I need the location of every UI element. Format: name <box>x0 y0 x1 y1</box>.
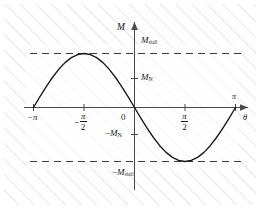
origin-label: 0 <box>121 113 126 122</box>
ytick-label-m-stall: Mstall <box>141 36 158 45</box>
half-pi-fraction: π 2 <box>181 112 188 131</box>
m-stall-symbol: M <box>141 35 149 45</box>
x-axis-label: θ <box>243 113 247 122</box>
neg-half-pi-fraction: π 2 <box>80 112 87 131</box>
neg-half-pi-denominator: 2 <box>80 122 87 131</box>
m-stall-subscript: stall <box>149 39 158 45</box>
x-axis-arrow <box>240 104 248 111</box>
m-n-subscript: N <box>149 76 153 82</box>
xtick-label-half-pi: π 2 <box>181 112 188 131</box>
ytick-label-neg-m-n: −MN <box>105 129 122 138</box>
neg-m-n-subscript: N <box>118 132 122 138</box>
half-pi-denominator: 2 <box>181 122 188 131</box>
plot-area <box>0 0 260 209</box>
neg-m-stall-subscript: stall <box>125 171 134 177</box>
neg-half-pi-numerator: π <box>80 112 87 121</box>
neg-m-stall-symbol: M <box>117 167 125 177</box>
ytick-label-neg-m-stall: −Mstall <box>112 168 134 177</box>
xtick-label-pi: π <box>232 93 236 101</box>
m-n-symbol: M <box>141 72 149 82</box>
xtick-label-neg-pi: −π <box>27 113 38 122</box>
xtick-label-neg-half-pi: − π 2 <box>74 112 87 131</box>
ytick-label-m-n: MN <box>141 73 153 82</box>
half-pi-numerator: π <box>181 112 188 121</box>
figure-sine-torque-chart: M θ 0 Mstall MN −MN −Mstall −π − π 2 π 2 <box>0 0 260 209</box>
y-axis-label: M <box>117 23 125 33</box>
y-axis-arrow <box>131 22 138 30</box>
neg-half-pi-sign: − <box>74 117 79 127</box>
neg-m-n-symbol: M <box>110 128 118 138</box>
